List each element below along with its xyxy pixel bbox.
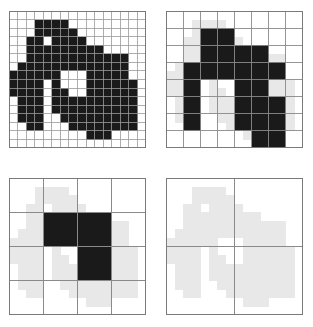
filled-cell [78, 54, 87, 63]
filled-cell [35, 28, 44, 37]
filled-cell [86, 105, 95, 114]
filled-cell [35, 54, 44, 63]
filled-cell [86, 62, 95, 71]
filled-cell [95, 71, 104, 80]
figure-container [0, 0, 313, 327]
filled-cell [26, 54, 35, 63]
filled-cell [86, 54, 95, 63]
filled-cell [69, 37, 78, 46]
filled-cell [103, 80, 112, 89]
filled-cell [235, 45, 253, 63]
filled-cell [60, 114, 69, 123]
filled-cell [9, 80, 18, 89]
filled-cell [18, 114, 27, 123]
filled-cell [129, 97, 138, 106]
filled-cell [112, 97, 121, 106]
filled-cell [95, 45, 104, 54]
filled-cell [112, 114, 121, 123]
filled-cell [95, 131, 104, 140]
filled-cell [95, 114, 104, 123]
filled-cell [129, 105, 138, 114]
filled-cell [112, 54, 121, 63]
filled-cell [95, 88, 104, 97]
filled-cell [52, 37, 61, 46]
filled-cell [35, 122, 44, 131]
panel-top-right [166, 11, 303, 148]
filled-cell [129, 114, 138, 123]
filled-cell [103, 71, 112, 80]
filled-cell [9, 71, 18, 80]
filled-cell [52, 71, 61, 80]
filled-cell [252, 131, 270, 148]
filled-cell [269, 62, 287, 80]
filled-cell [95, 122, 104, 131]
filled-cell [112, 105, 121, 114]
filled-cell [69, 105, 78, 114]
filled-cell [35, 62, 44, 71]
panel-top-right-canvas [166, 11, 303, 148]
filled-cell [252, 62, 270, 80]
filled-cell [26, 37, 35, 46]
filled-cell [52, 28, 61, 37]
filled-cell [120, 80, 129, 89]
filled-cell [112, 122, 121, 131]
filled-cell [95, 80, 104, 89]
filled-cell [200, 45, 218, 63]
filled-cell [103, 54, 112, 63]
filled-cell [120, 97, 129, 106]
filled-cell [200, 62, 218, 80]
filled-cell [52, 20, 61, 29]
filled-cell [86, 45, 95, 54]
filled-cell [26, 45, 35, 54]
filled-cell [86, 114, 95, 123]
filled-cell [95, 97, 104, 106]
filled-cell [112, 62, 121, 71]
filled-cell [52, 54, 61, 63]
filled-cell [35, 71, 44, 80]
filled-cell [86, 88, 95, 97]
filled-cell [129, 88, 138, 97]
panel-bottom-left-canvas [9, 178, 146, 315]
filled-cell [86, 71, 95, 80]
filled-cell [60, 54, 69, 63]
panel-top-left [9, 11, 146, 148]
filled-cell [103, 131, 112, 140]
filled-cell [120, 105, 129, 114]
filled-cell [183, 97, 201, 115]
filled-cell [269, 131, 287, 148]
filled-cell [235, 114, 253, 132]
filled-cell [26, 105, 35, 114]
panel-top-left-canvas [9, 11, 146, 148]
filled-cell [103, 122, 112, 131]
filled-cell [269, 114, 287, 132]
filled-cell [103, 62, 112, 71]
filled-cell [60, 28, 69, 37]
filled-cell [69, 122, 78, 131]
filled-cell [200, 28, 218, 46]
panel-bottom-right [166, 178, 303, 315]
filled-cell [120, 62, 129, 71]
filled-cell [35, 114, 44, 123]
filled-cell [78, 37, 87, 46]
filled-cell [69, 54, 78, 63]
filled-cell [235, 97, 253, 115]
filled-cell [35, 45, 44, 54]
filled-cell [120, 88, 129, 97]
filled-cell [26, 122, 35, 131]
filled-cell [26, 62, 35, 71]
filled-cell [35, 105, 44, 114]
filled-cell [18, 71, 27, 80]
filled-cell [18, 97, 27, 106]
filled-cell [26, 88, 35, 97]
filled-cell [78, 122, 87, 131]
filled-cell [78, 114, 87, 123]
filled-cell [183, 114, 201, 132]
filled-cell [217, 28, 235, 46]
filled-cell [120, 71, 129, 80]
filled-cell [26, 114, 35, 123]
filled-cell [120, 122, 129, 131]
filled-cell [43, 28, 52, 37]
filled-cell [60, 20, 69, 29]
filled-cell [26, 71, 35, 80]
filled-cell [35, 37, 44, 46]
